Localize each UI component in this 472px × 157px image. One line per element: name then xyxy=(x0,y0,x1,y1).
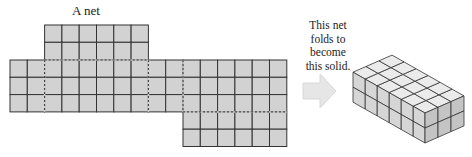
diagram-canvas xyxy=(0,0,472,157)
rectangular-solid xyxy=(353,55,464,143)
net-diagram xyxy=(10,25,287,147)
right-arrow-icon xyxy=(303,74,336,108)
